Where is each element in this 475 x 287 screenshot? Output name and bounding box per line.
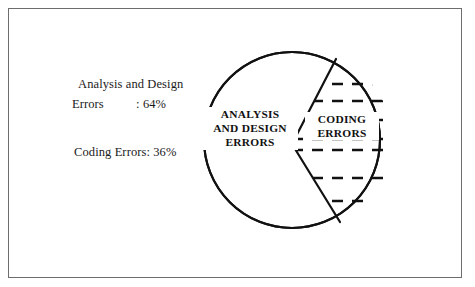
figure-canvas: Analysis and Design Errors : 64% Coding … xyxy=(0,0,475,287)
legend-item-analysis-design-errors-line1: Analysis and Design xyxy=(62,74,202,94)
legend: Analysis and Design Errors : 64% Coding … xyxy=(62,74,202,162)
legend-item-analysis-design-errors-value: Errors : 64% xyxy=(62,94,202,114)
slice-label-coding-errors: CODING ERRORS xyxy=(305,112,379,140)
slice-label-analysis-and-design-errors: ANALYSIS AND DESIGN ERRORS xyxy=(202,107,298,150)
legend-item-coding-errors-value: Coding Errors: 36% xyxy=(62,142,202,162)
